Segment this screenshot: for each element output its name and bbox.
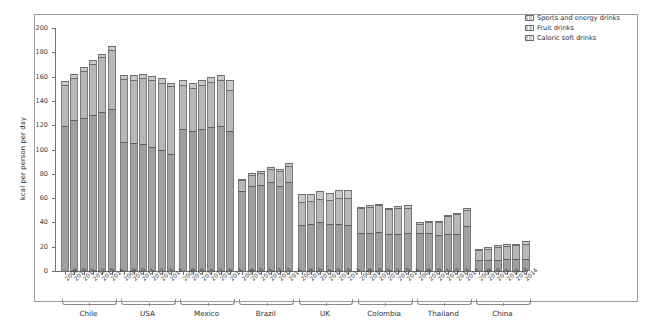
bar-segment-fruit-drinks [120, 79, 128, 142]
bar-segment-fruit-drinks [267, 169, 275, 182]
bar-segment-caloric-soft-drinks [226, 131, 234, 271]
bar-stack [98, 54, 106, 271]
bar-segment-caloric-soft-drinks [257, 185, 265, 271]
bar-segment-fruit-drinks [257, 173, 265, 185]
bar-segment-sports-and-energy-drinks [335, 190, 343, 198]
legend-item-fruit: Fruit drinks [525, 24, 645, 32]
bar-segment-caloric-soft-drinks [435, 235, 443, 271]
y-tick [52, 174, 56, 175]
bar-segment-sports-and-energy-drinks [226, 80, 234, 90]
group-brace [62, 299, 117, 305]
bar-segment-caloric-soft-drinks [130, 143, 138, 271]
bar-segment-fruit-drinks [475, 250, 483, 260]
bar-segment-caloric-soft-drinks [366, 233, 374, 271]
y-tick [52, 52, 56, 53]
legend-item-caloric: Caloric soft drinks [525, 34, 645, 42]
y-tick-label: 140 [22, 97, 48, 105]
legend-swatch-caloric-soft-drinks [525, 35, 534, 41]
bar-segment-caloric-soft-drinks [463, 226, 471, 271]
bar-segment-fruit-drinks [335, 198, 343, 224]
bar-stack [80, 67, 88, 271]
y-tick-label: 20 [22, 243, 48, 251]
bar-segment-fruit-drinks [217, 80, 225, 126]
bar-segment-fruit-drinks [238, 180, 246, 191]
bar-stack [70, 74, 78, 271]
bar-stack [285, 163, 293, 271]
bar-stack [394, 206, 402, 271]
bar-segment-fruit-drinks [444, 216, 452, 234]
bar-stack [404, 205, 412, 271]
bar-segment-fruit-drinks [404, 208, 412, 234]
bar-segment-sports-and-energy-drinks [344, 190, 352, 199]
bar-stack [326, 193, 334, 271]
bar-segment-fruit-drinks [522, 244, 530, 259]
y-tick-label: 200 [22, 24, 48, 32]
y-tick [52, 101, 56, 102]
y-tick [52, 125, 56, 126]
bar-segment-fruit-drinks [494, 247, 502, 260]
bar-stack [130, 75, 138, 271]
bar-stack [189, 83, 197, 271]
bar-segment-fruit-drinks [108, 50, 116, 110]
bar-stack [257, 171, 265, 271]
bar-stack [316, 191, 324, 271]
bar-stack [139, 74, 147, 271]
y-tick-label: 120 [22, 121, 48, 129]
bar-segment-fruit-drinks [425, 222, 433, 233]
bar-stack [158, 78, 166, 271]
bar-segment-caloric-soft-drinks [385, 234, 393, 271]
group-brace-nub [208, 303, 209, 306]
bar-segment-caloric-soft-drinks [98, 112, 106, 271]
bar-segment-fruit-drinks [248, 175, 256, 186]
y-tick [52, 77, 56, 78]
bar-segment-fruit-drinks [453, 214, 461, 233]
bar-segment-caloric-soft-drinks [316, 222, 324, 271]
bar-segment-caloric-soft-drinks [453, 234, 461, 271]
bar-stack [226, 80, 234, 271]
y-tick-label: 100 [22, 146, 48, 154]
y-tick [52, 198, 56, 199]
bar-segment-fruit-drinks [394, 208, 402, 234]
legend-item-sports: Sports and energy drinks [525, 14, 645, 22]
bar-segment-sports-and-energy-drinks [307, 194, 315, 201]
bar-segment-fruit-drinks [512, 245, 520, 259]
bar-segment-fruit-drinks [503, 246, 511, 259]
bar-segment-caloric-soft-drinks [70, 120, 78, 271]
group-brace-nub [503, 303, 504, 306]
y-tick [52, 222, 56, 223]
bar-stack [217, 75, 225, 271]
bar-segment-caloric-soft-drinks [139, 144, 147, 271]
bar-stack [335, 190, 343, 271]
chart-figure: kcal per person per day 0204060801001201… [0, 0, 651, 333]
bar-stack [89, 60, 97, 271]
legend-label-caloric-soft-drinks: Caloric soft drinks [537, 34, 596, 42]
bar-segment-caloric-soft-drinks [189, 131, 197, 271]
bar-segment-caloric-soft-drinks [179, 129, 187, 271]
bar-segment-fruit-drinks [463, 210, 471, 226]
bar-segment-fruit-drinks [139, 78, 147, 144]
group-brace [358, 299, 413, 305]
bar-segment-fruit-drinks [366, 207, 374, 233]
bar-segment-fruit-drinks [61, 85, 69, 126]
bar-segment-fruit-drinks [416, 224, 424, 234]
bar-stack [207, 77, 215, 271]
bar-segment-caloric-soft-drinks [307, 224, 315, 271]
y-tick-label: 40 [22, 218, 48, 226]
y-tick-label: 0 [22, 267, 48, 275]
bar-segment-caloric-soft-drinks [425, 233, 433, 271]
bar-segment-fruit-drinks [375, 205, 383, 232]
bar-segment-caloric-soft-drinks [298, 225, 306, 271]
bar-segment-fruit-drinks [80, 71, 88, 118]
bar-segment-fruit-drinks [89, 64, 97, 115]
bar-stack [179, 80, 187, 271]
bar-segment-sports-and-energy-drinks [298, 194, 306, 201]
bar-stack [167, 83, 175, 271]
bar-stack [148, 76, 156, 271]
bar-segment-caloric-soft-drinks [375, 232, 383, 271]
bar-segment-fruit-drinks [130, 80, 138, 144]
group-brace [417, 299, 472, 305]
group-brace-nub [444, 303, 445, 306]
bar-stack [444, 215, 452, 271]
bar-stack [108, 46, 116, 271]
bar-segment-fruit-drinks [316, 199, 324, 223]
